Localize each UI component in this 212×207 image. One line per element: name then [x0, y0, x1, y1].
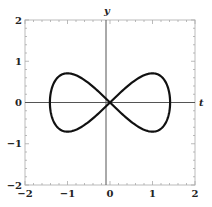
x-tick-labels: −2−1012 — [17, 188, 198, 199]
y-tick-label: 1 — [15, 56, 22, 67]
y-tick-label: 0 — [15, 97, 22, 108]
y-tick-labels: −2−1012 — [7, 15, 22, 191]
x-tick-label: 1 — [149, 188, 156, 199]
plot-area: −2−1012 −2−1012 t y — [0, 0, 212, 207]
y-tick-label: 2 — [15, 15, 22, 26]
x-axis-label: t — [199, 97, 204, 108]
y-tick-label: −2 — [7, 180, 22, 191]
y-axis-label: y — [103, 5, 111, 16]
y-tick-label: −1 — [7, 138, 22, 149]
x-tick-label: 0 — [107, 188, 114, 199]
x-tick-label: 2 — [192, 188, 199, 199]
x-tick-label: −1 — [60, 188, 75, 199]
